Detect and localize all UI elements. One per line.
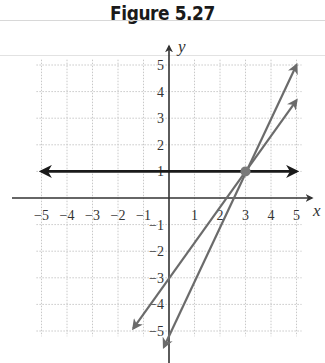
- x-tick-label: 1: [191, 208, 198, 223]
- y-tick-label: −1: [149, 218, 164, 233]
- x-tick-label: −4: [60, 208, 75, 223]
- intersection-point: [241, 166, 251, 176]
- x-tick-label: 3: [242, 208, 249, 223]
- x-axis-label: x: [312, 201, 321, 220]
- x-tick-label: 5: [293, 208, 300, 223]
- y-tick-label: −5: [149, 324, 164, 339]
- y-axis-label: y: [176, 37, 186, 56]
- y-tick-label: −3: [149, 271, 164, 286]
- y-tick-label: 5: [157, 58, 164, 73]
- y-tick-label: −2: [149, 244, 164, 259]
- x-tick-label: 4: [268, 208, 275, 223]
- x-tick-label: −2: [111, 208, 126, 223]
- y-tick-label: 2: [157, 138, 164, 153]
- y-tick-label: 4: [157, 85, 164, 100]
- x-tick-label: −3: [85, 208, 100, 223]
- y-tick-label: 3: [157, 111, 164, 126]
- coordinate-plane: xy−5−4−3−2−11234554321−1−2−3−4−5: [0, 0, 325, 363]
- x-tick-label: −5: [34, 208, 49, 223]
